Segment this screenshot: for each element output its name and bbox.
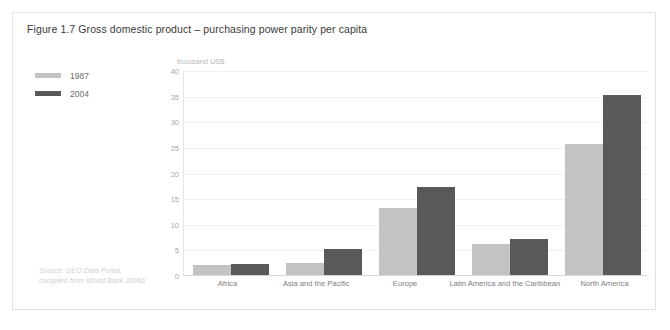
bar-2004: [231, 264, 269, 275]
plot-wrapper: 0510152025303540: [161, 71, 649, 276]
bar-group: [463, 71, 556, 275]
bar-1987: [286, 263, 324, 275]
bar-1987: [565, 144, 603, 275]
y-axis-tick-label: 20: [171, 169, 179, 178]
chart-area: thousand US$ 0510152025303540 AfricaAsia…: [161, 57, 649, 307]
legend-swatch-2004: [35, 91, 61, 96]
chart-legend: 1987 2004: [35, 68, 145, 104]
y-axis-tick-label: 10: [171, 220, 179, 229]
bar-group: [184, 71, 277, 275]
y-axis-unit-label: thousand US$: [177, 57, 225, 66]
legend-item-1987: 1987: [35, 68, 145, 83]
x-axis-tick-label: Asia and the Pacific: [272, 279, 361, 288]
bar-1987: [193, 265, 231, 275]
y-axis-tick-label: 15: [171, 195, 179, 204]
x-axis-tick-label: Africa: [183, 279, 272, 288]
bar-2004: [510, 239, 548, 275]
bar-1987: [472, 244, 510, 275]
legend-swatch-1987: [35, 73, 61, 78]
page-title: Figure 1.7 Gross domestic product – purc…: [27, 23, 367, 35]
figure-panel: Figure 1.7 Gross domestic product – purc…: [12, 12, 656, 310]
x-axis-tick-label: Latin America and the Caribbean: [450, 279, 561, 288]
bar-1987: [379, 208, 417, 275]
bar-2004: [324, 249, 362, 275]
bar-group: [370, 71, 463, 275]
y-axis-tick-label: 0: [175, 272, 179, 281]
x-axis-tick-label: North America: [560, 279, 649, 288]
bar-groups: [184, 71, 649, 275]
legend-item-2004: 2004: [35, 86, 145, 101]
x-axis-labels: AfricaAsia and the PacificEuropeLatin Am…: [183, 279, 649, 288]
y-axis-tick-label: 5: [175, 246, 179, 255]
x-axis-tick-label: Europe: [361, 279, 450, 288]
bar-group: [277, 71, 370, 275]
legend-label-2004: 2004: [70, 89, 89, 99]
plot-region: [183, 71, 649, 276]
legend-label-1987: 1987: [70, 71, 89, 81]
y-axis: 0510152025303540: [161, 71, 183, 276]
source-note: Source: GEO Data Portal, compiled from W…: [39, 266, 149, 287]
y-axis-tick-label: 30: [171, 118, 179, 127]
bar-2004: [603, 95, 641, 275]
bar-2004: [417, 187, 455, 275]
y-axis-tick-label: 35: [171, 92, 179, 101]
y-axis-tick-label: 25: [171, 143, 179, 152]
bar-group: [556, 71, 649, 275]
y-axis-tick-label: 40: [171, 67, 179, 76]
